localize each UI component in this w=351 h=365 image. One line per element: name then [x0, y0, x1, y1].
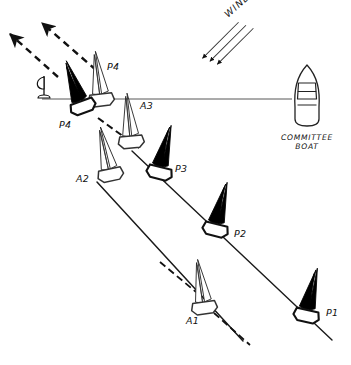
boat-P1-hull: [292, 307, 320, 325]
boat-label-A2: A2: [75, 173, 89, 184]
wind-indicator: WIND: [202, 0, 253, 72]
boat-label-A3: A3: [139, 100, 153, 111]
committee-boat-label-line1: COMMITTEE: [281, 133, 333, 142]
starboard-track-dash-upper: [160, 262, 196, 292]
wind-arrow-3: [217, 21, 253, 72]
boat-P1-sails: [299, 266, 324, 312]
boat-P2-hull: [201, 221, 229, 239]
committee-boat: COMMITTEE BOAT: [281, 65, 333, 151]
escape-arrows: [10, 23, 96, 77]
pin-mark-base-icon: [38, 95, 50, 98]
pin-mark: [37, 76, 50, 98]
boat-label-P2: P2: [234, 228, 246, 239]
escape-arrow-lower: [10, 34, 58, 77]
boat-label-P3: P3: [175, 163, 187, 174]
boat-A2-sails: [93, 125, 118, 171]
sailing-diagram: WIND COMMITTEE BOAT P4 P4: [0, 0, 351, 365]
wind-label: WIND: [222, 0, 252, 19]
wind-arrow-2: [210, 18, 246, 69]
boat-label-A1: A1: [185, 315, 199, 326]
boat-label-P1: P1: [326, 307, 338, 318]
wind-arrow-1: [202, 15, 238, 66]
pin-mark-flag-icon: [37, 77, 44, 89]
diagram-canvas: WIND COMMITTEE BOAT P4 P4: [0, 0, 351, 365]
escape-arrow-upper: [42, 23, 96, 70]
starboard-track-dash-lower: [214, 313, 250, 345]
committee-boat-label-line2: BOAT: [295, 142, 319, 151]
boat-label-A4: P4: [107, 61, 119, 72]
boat-P3-sails: [152, 123, 178, 170]
boat-A3-hull: [118, 135, 145, 149]
boat-P2-sails: [208, 180, 234, 227]
boat-label-P4: P4: [59, 119, 71, 130]
boat-P4-sails: [58, 58, 88, 105]
boat-P3-hull: [145, 164, 173, 182]
boat-A2-hull: [97, 166, 125, 183]
boat-A1-sails: [190, 258, 212, 304]
boat-A4-sails: [87, 50, 108, 96]
boat-P1: [292, 265, 330, 324]
